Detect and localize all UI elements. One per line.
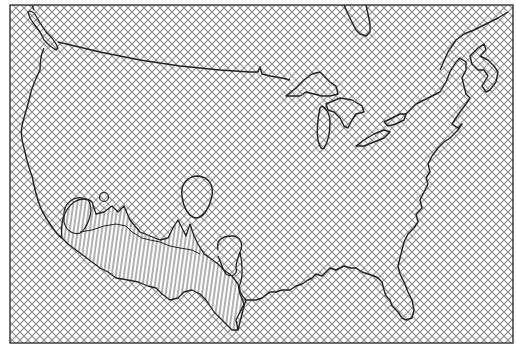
map-canvas: [0, 0, 516, 350]
map-figure: [0, 0, 516, 350]
map-background-crosshatch: [10, 5, 513, 343]
